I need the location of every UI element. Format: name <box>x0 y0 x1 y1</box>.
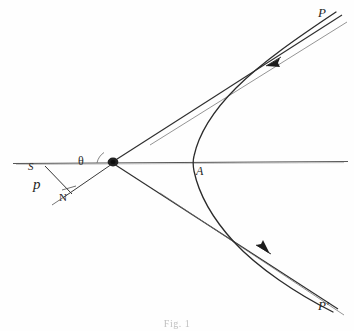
impact-parameter-label: p <box>33 177 41 192</box>
asymptote-lower-label: P' <box>318 299 329 312</box>
vertex-label: A <box>196 165 203 177</box>
upper-asymptote <box>114 15 342 161</box>
impact-parameter-segment <box>45 166 76 194</box>
deflection-angle-label: θ <box>78 155 84 167</box>
outgoing-direction-arrow <box>256 240 271 254</box>
foot-of-perpendicular-label: N <box>59 192 67 203</box>
lower-asymptote-group <box>114 164 344 315</box>
deflection-angle-arc <box>97 153 104 163</box>
figure-container: P P' A S p N θ Fig. 1 <box>0 0 354 331</box>
focus-label: S <box>28 161 34 172</box>
upper-asymptote-companion <box>150 22 347 145</box>
lower-asymptote-companion <box>160 193 344 315</box>
asymptote-upper-label: P <box>318 6 326 19</box>
figure-caption: Fig. 1 <box>0 318 354 329</box>
upper-asymptote-group <box>114 15 347 161</box>
figure-drawing <box>0 0 354 331</box>
focus-point <box>108 158 119 167</box>
